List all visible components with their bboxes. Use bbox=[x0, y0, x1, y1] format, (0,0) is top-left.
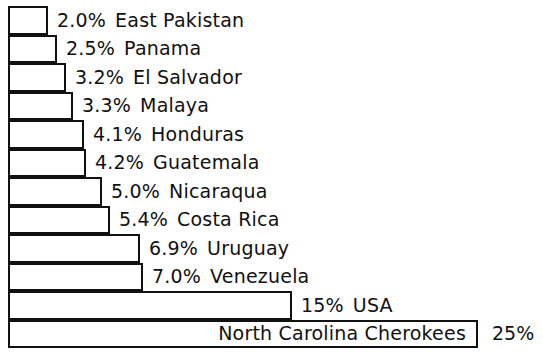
bar-annotation: 3.2%El Salvador bbox=[66, 68, 242, 87]
bar-value-label: 6.9% bbox=[149, 239, 198, 258]
bar-category-label: El Salvador bbox=[133, 68, 242, 87]
bar-value-label: 4.1% bbox=[93, 125, 142, 144]
bar-annotation: 2.0%East Pakistan bbox=[48, 11, 244, 30]
bar-value-label: 25% bbox=[478, 324, 534, 343]
bar-value-label: 5.4% bbox=[119, 210, 168, 229]
bar bbox=[8, 149, 86, 178]
bar-row: 3.2%El Salvador bbox=[0, 63, 543, 92]
bar-category-label: Honduras bbox=[151, 125, 244, 144]
bar-category-label: Panama bbox=[124, 39, 201, 58]
bar-annotation: 2.5%Panama bbox=[57, 39, 201, 58]
bar-category-label: Venezuela bbox=[210, 267, 309, 286]
bar bbox=[8, 206, 110, 235]
horizontal-bar-chart: 2.0%East Pakistan2.5%Panama3.2%El Salvad… bbox=[0, 0, 543, 352]
bar-annotation: 4.2%Guatemala bbox=[86, 153, 260, 172]
bar-row: 2.0%East Pakistan bbox=[0, 6, 543, 35]
bar-value-label: 2.5% bbox=[66, 39, 115, 58]
bar-annotation: 6.9%Uruguay bbox=[140, 239, 289, 258]
bar-value-label: 2.0% bbox=[57, 11, 106, 30]
bar: North Carolina Cherokees bbox=[8, 320, 478, 349]
bar-category-label: Guatemala bbox=[153, 153, 259, 172]
bar-value-label: 3.2% bbox=[75, 68, 124, 87]
bar-row: 4.1%Honduras bbox=[0, 120, 543, 149]
bar-value-label: 3.3% bbox=[82, 96, 131, 115]
bar-annotation: 7.0%Venezuela bbox=[143, 267, 309, 286]
bar-row: 15%USA bbox=[0, 291, 543, 320]
bar-row: 2.5%Panama bbox=[0, 35, 543, 64]
bar-category-label: Uruguay bbox=[207, 239, 289, 258]
bar-annotation: 4.1%Honduras bbox=[84, 125, 244, 144]
bar-row: 4.2%Guatemala bbox=[0, 149, 543, 178]
bar-category-label: Nicaraqua bbox=[169, 182, 268, 201]
bar-row: North Carolina Cherokees25% bbox=[0, 320, 543, 349]
bar-category-label: East Pakistan bbox=[115, 11, 244, 30]
bar bbox=[8, 6, 48, 35]
bar-row: 5.0%Nicaraqua bbox=[0, 177, 543, 206]
bar-annotation: 15%USA bbox=[292, 296, 393, 315]
bar-row: 6.9%Uruguay bbox=[0, 234, 543, 263]
bar-value-label: 15% bbox=[301, 296, 344, 315]
bar bbox=[8, 63, 66, 92]
bar-category-label: Malaya bbox=[140, 96, 209, 115]
bar bbox=[8, 291, 292, 320]
bar bbox=[8, 92, 73, 121]
bar-value-label: 4.2% bbox=[95, 153, 144, 172]
bar-category-label: Costa Rica bbox=[177, 210, 280, 229]
bar-category-label: North Carolina Cherokees bbox=[218, 324, 476, 343]
bar-row: 7.0%Venezuela bbox=[0, 263, 543, 292]
bar-row: 5.4%Costa Rica bbox=[0, 206, 543, 235]
bar bbox=[8, 234, 140, 263]
bar bbox=[8, 120, 84, 149]
bar-value-label: 7.0% bbox=[152, 267, 201, 286]
bar bbox=[8, 263, 143, 292]
bar-annotation: 5.4%Costa Rica bbox=[110, 210, 280, 229]
bar-annotation: 5.0%Nicaraqua bbox=[102, 182, 268, 201]
bar-annotation: 3.3%Malaya bbox=[73, 96, 209, 115]
bar-row: 3.3%Malaya bbox=[0, 92, 543, 121]
bar-category-label: USA bbox=[353, 296, 393, 315]
bar bbox=[8, 177, 102, 206]
bar-value-label: 5.0% bbox=[111, 182, 160, 201]
bar bbox=[8, 35, 57, 64]
